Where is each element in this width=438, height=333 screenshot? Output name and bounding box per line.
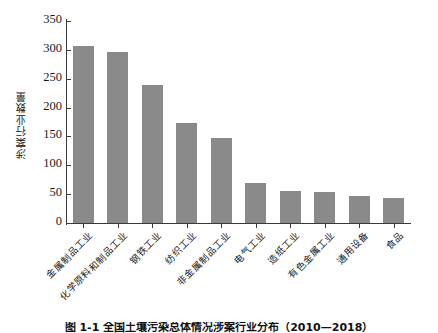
x-tick-label-text: 化学原料和制品工业 bbox=[58, 230, 130, 302]
x-tick-mark bbox=[187, 224, 188, 228]
x-tick-mark bbox=[256, 224, 257, 228]
y-tick: 150 bbox=[66, 136, 72, 137]
x-tick-mark bbox=[221, 224, 222, 228]
x-tick-label-text: 食品 bbox=[384, 230, 406, 252]
x-tick-label-text: 钢铁工业 bbox=[128, 230, 164, 266]
x-tick-label: 通用设备 bbox=[335, 230, 371, 266]
bar[interactable] bbox=[211, 138, 232, 223]
bar-chart-figure: 涉案行业数量 050100150200250300350 金属制品工业化学原料和… bbox=[0, 0, 438, 333]
y-tick-mark bbox=[67, 136, 71, 137]
x-tick-label-text: 通用设备 bbox=[335, 230, 371, 266]
y-tick-mark bbox=[67, 165, 71, 166]
y-tick-label: 150 bbox=[43, 128, 62, 140]
x-tick-mark bbox=[325, 224, 326, 228]
x-tick-label-text: 电气工业 bbox=[232, 230, 268, 266]
y-axis-title: 涉案行业数量 bbox=[14, 60, 30, 190]
y-tick-label: 50 bbox=[50, 186, 63, 198]
y-tick: 0 bbox=[66, 223, 72, 224]
y-tick: 100 bbox=[66, 165, 72, 166]
x-tick-label: 电气工业 bbox=[232, 230, 268, 266]
x-tick-label: 化学原料和制品工业 bbox=[58, 230, 130, 302]
y-tick-mark bbox=[67, 79, 71, 80]
bar[interactable] bbox=[383, 198, 404, 223]
x-tick-mark bbox=[290, 224, 291, 228]
x-tick-mark bbox=[394, 224, 395, 228]
y-tick: 250 bbox=[66, 79, 72, 80]
bar[interactable] bbox=[176, 123, 197, 223]
y-tick-label: 100 bbox=[43, 157, 62, 169]
x-tick-mark bbox=[152, 224, 153, 228]
bar[interactable] bbox=[107, 52, 128, 223]
x-tick-mark bbox=[83, 224, 84, 228]
y-tick: 300 bbox=[66, 50, 72, 51]
y-tick: 50 bbox=[66, 194, 72, 195]
x-tick-label: 食品 bbox=[384, 230, 406, 252]
x-tick-mark bbox=[359, 224, 360, 228]
y-tick-label: 350 bbox=[43, 13, 62, 25]
y-tick-mark bbox=[67, 194, 71, 195]
x-tick-label: 钢铁工业 bbox=[128, 230, 164, 266]
figure-caption: 图 1-1 全国土壤污染总体情况涉案行业分布（2010—2018） bbox=[0, 322, 438, 333]
y-tick: 200 bbox=[66, 108, 72, 109]
y-tick-mark bbox=[67, 223, 71, 224]
y-tick-mark bbox=[67, 21, 71, 22]
bar[interactable] bbox=[314, 192, 335, 223]
y-tick-label: 200 bbox=[43, 100, 62, 112]
y-tick-mark bbox=[67, 108, 71, 109]
bar[interactable] bbox=[142, 85, 163, 224]
bar[interactable] bbox=[245, 183, 266, 223]
bar[interactable] bbox=[280, 191, 301, 223]
y-tick-mark bbox=[67, 50, 71, 51]
y-tick-label: 300 bbox=[43, 42, 62, 54]
x-tick-mark bbox=[118, 224, 119, 228]
plot-area: 050100150200250300350 bbox=[66, 22, 411, 224]
bar[interactable] bbox=[349, 196, 370, 223]
y-tick-label: 0 bbox=[56, 215, 62, 227]
y-tick: 350 bbox=[66, 21, 72, 22]
y-tick-label: 250 bbox=[43, 71, 62, 83]
bar[interactable] bbox=[73, 46, 94, 223]
